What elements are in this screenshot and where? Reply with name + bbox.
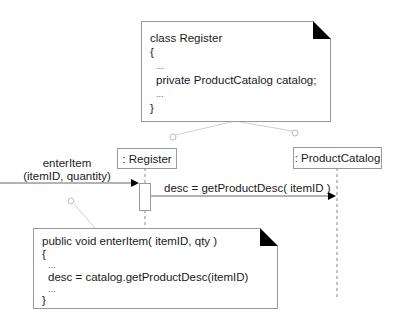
getproductdesc-message-label: desc = getProductDesc( itemID ) bbox=[164, 182, 331, 194]
note-line: { bbox=[42, 248, 269, 260]
note-fold-corner bbox=[260, 228, 278, 246]
register-activation-bar bbox=[139, 183, 151, 211]
note-line: desc = catalog.getProductDesc(itemID) bbox=[42, 270, 269, 284]
note-line: private ProductCatalog catalog; bbox=[150, 73, 322, 87]
message-name: enterItem bbox=[12, 157, 122, 170]
note-line: public void enterItem( itemID, qty ) bbox=[42, 235, 269, 248]
note-line: ... bbox=[42, 260, 269, 270]
note-line: ... bbox=[150, 59, 322, 73]
enteritem-method-note: public void enterItem( itemID, qty ) { .… bbox=[33, 228, 278, 309]
note-fold-corner bbox=[313, 21, 331, 39]
enteritem-message-label: enterItem (itemID, quantity) bbox=[12, 157, 122, 183]
note-line: ... bbox=[150, 87, 322, 101]
productcatalog-lifeline-box: : ProductCatalog bbox=[293, 147, 382, 169]
note-line: } bbox=[42, 294, 269, 306]
note-line: } bbox=[150, 101, 322, 115]
note-line: ... bbox=[42, 284, 269, 294]
register-class-note: class Register { ... private ProductCata… bbox=[141, 21, 331, 122]
message-args: (itemID, quantity) bbox=[12, 170, 122, 183]
note-line: { bbox=[150, 45, 322, 59]
register-lifeline-box: : Register bbox=[117, 148, 177, 169]
note-line: class Register bbox=[150, 31, 322, 45]
